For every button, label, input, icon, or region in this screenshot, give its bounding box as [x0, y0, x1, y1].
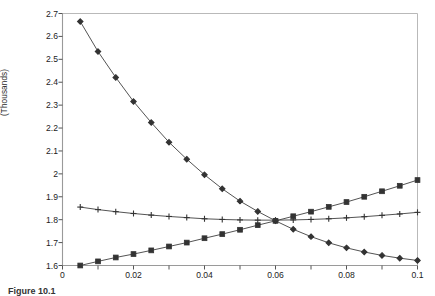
data-point-square [238, 227, 243, 232]
data-point-square [149, 248, 154, 253]
series-flat [77, 204, 420, 223]
data-point-diamond [415, 258, 420, 263]
data-point-diamond [291, 227, 296, 232]
series-line-declining [80, 22, 417, 261]
data-point-diamond [397, 255, 402, 260]
data-point-square [362, 194, 367, 199]
data-point-square [202, 236, 207, 241]
data-point-diamond [95, 49, 100, 54]
data-point-square [220, 232, 225, 237]
data-point-diamond [255, 209, 260, 214]
data-point-square [344, 200, 349, 205]
data-point-diamond [78, 19, 83, 24]
data-point-square [415, 178, 420, 183]
figure-caption: Figure 10.1 [8, 286, 56, 296]
data-point-diamond [362, 249, 367, 254]
line-chart-plot [0, 0, 435, 296]
data-point-square [184, 240, 189, 245]
data-point-diamond [344, 245, 349, 250]
data-point-square [255, 223, 260, 228]
data-point-square [113, 255, 118, 260]
data-point-square [78, 263, 83, 268]
data-point-square [309, 209, 314, 214]
figure-container: (Thousands) 1.61.71.81.922.12.22.32.42.5… [0, 0, 435, 296]
data-point-square [326, 204, 331, 209]
data-point-diamond [326, 240, 331, 245]
data-point-square [96, 259, 101, 264]
series-rising [78, 178, 420, 268]
series-declining [78, 19, 421, 263]
data-point-diamond [379, 253, 384, 258]
data-point-square [167, 244, 172, 249]
data-point-square [380, 189, 385, 194]
data-point-square [397, 183, 402, 188]
data-point-diamond [308, 234, 313, 239]
data-point-square [131, 252, 136, 257]
